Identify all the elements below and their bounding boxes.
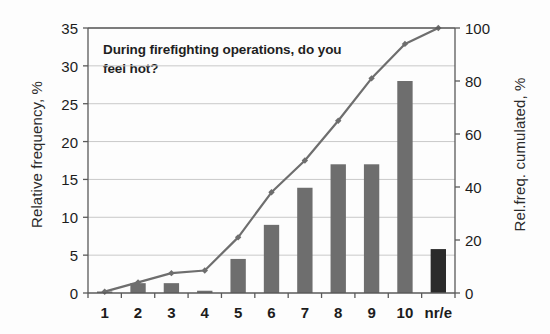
bar-series [97,81,446,293]
y-axis-right-tick: 0 [465,286,505,301]
y-axis-right-tick: 40 [465,180,505,195]
y-axis-left-tick: 20 [44,135,78,150]
plot-area [0,0,550,334]
y-axis-left-tick: 35 [44,21,78,36]
y-axis-left-tick: 30 [44,59,78,74]
y-axis-left-tick: 5 [44,248,78,263]
y-axis-right-tick: 60 [465,127,505,142]
y-axis-left-tick: 10 [44,210,78,225]
y-axis-right-tick: 20 [465,233,505,248]
chart-figure: Relative frequency, % Rel.freq. cumulate… [0,0,550,334]
y-axis-right-tick: 80 [465,74,505,89]
y-axis-left-tick: 15 [44,172,78,187]
x-axis-tick: nr/e [414,305,462,320]
y-axis-left-tick: 25 [44,97,78,112]
y-axis-left-tick: 0 [44,286,78,301]
y-axis-right-tick: 100 [465,21,505,36]
